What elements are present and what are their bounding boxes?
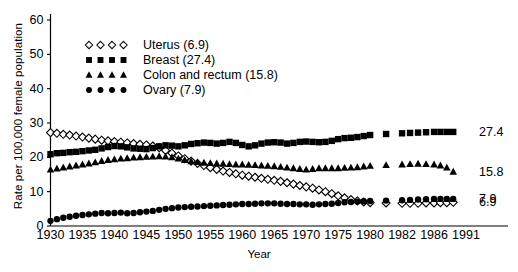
legend-label: Uterus (6.9) <box>143 39 209 52</box>
x-tick-label: 1955 <box>193 229 227 242</box>
series-colon-and-rectum <box>47 152 457 174</box>
x-tick-label: 1940 <box>97 229 131 242</box>
x-tick-label: 1935 <box>65 229 99 242</box>
x-tick-label: 1945 <box>129 229 163 242</box>
x-tick-label: 1982 <box>385 229 419 242</box>
end-value-label-uterus: 6.9 <box>479 196 496 208</box>
legend-item[interactable]: Breast (27.4) <box>84 53 278 67</box>
legend-label: Colon and rectum (15.8) <box>143 69 278 82</box>
legend-label: Ovary (7.9) <box>143 84 206 97</box>
x-tick-label: 1975 <box>321 229 355 242</box>
y-tick-label: 60 <box>18 14 44 26</box>
legend-item[interactable]: Uterus (6.9) <box>84 38 278 52</box>
y-tick-label: 30 <box>18 117 44 129</box>
x-tick-label: 1965 <box>257 229 291 242</box>
y-tick-label: 50 <box>18 48 44 60</box>
x-tick-label: 1986 <box>417 229 451 242</box>
series-ovary <box>47 196 456 224</box>
y-tick-label: 10 <box>18 186 44 198</box>
x-tick-label: 1970 <box>289 229 323 242</box>
legend-marker-filled-square-icon <box>84 53 136 67</box>
x-tick-label: 1960 <box>225 229 259 242</box>
legend-marker-filled-triangle-icon <box>84 68 136 82</box>
x-tick-label: 1930 <box>34 229 68 242</box>
y-tick-label: 40 <box>18 83 44 95</box>
end-value-label-colon-and-rectum: 15.8 <box>479 166 503 178</box>
legend-marker-filled-circle-icon <box>84 83 136 97</box>
x-tick-label: 1950 <box>161 229 195 242</box>
legend-label: Breast (27.4) <box>143 54 215 67</box>
x-axis-title: Year <box>0 248 518 260</box>
x-tick-label: 1980 <box>353 229 387 242</box>
legend-marker-open-diamond-icon <box>84 38 136 52</box>
y-tick-label: 20 <box>18 151 44 163</box>
legend-item[interactable]: Colon and rectum (15.8) <box>84 68 278 82</box>
chart-figure: Rate per 100,000 female population010203… <box>0 0 518 272</box>
legend-item[interactable]: Ovary (7.9) <box>84 83 278 97</box>
end-value-label-breast: 27.4 <box>479 126 503 138</box>
x-tick-label: 1991 <box>449 229 483 242</box>
chart-legend: Uterus (6.9)Breast (27.4)Colon and rectu… <box>84 38 278 98</box>
